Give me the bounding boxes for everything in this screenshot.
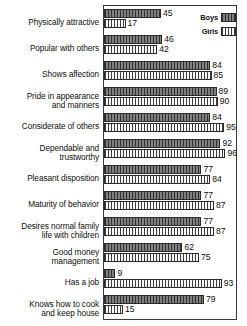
bar-girls <box>104 149 225 158</box>
bar-boys <box>104 165 201 174</box>
legend-label-girls: Girls <box>202 27 218 36</box>
legend-item-boys: Boys <box>190 12 236 23</box>
bar-girls <box>104 97 218 106</box>
bar-boys <box>104 243 182 252</box>
bar-boys <box>104 9 161 18</box>
category-label: Considerate of others <box>0 122 99 132</box>
bar-value-label: 79 <box>206 295 216 304</box>
bar-value-label: 9 <box>117 269 122 278</box>
chart-legend: Boys Girls <box>190 12 236 40</box>
bar-girls <box>104 279 222 288</box>
bar-value-label: 84 <box>212 113 222 122</box>
chart-row: Desires normal family life with children… <box>0 217 247 236</box>
bar-girls <box>104 123 224 132</box>
bar-value-label: 87 <box>216 227 226 236</box>
bar-value-label: 77 <box>203 165 213 174</box>
bar-chart: Physically attractive4517Popular with ot… <box>0 0 247 326</box>
bar-value-label: 77 <box>203 191 213 200</box>
bar-value-label: 85 <box>214 71 224 80</box>
bar-value-label: 84 <box>212 175 222 184</box>
bar-value-label: 75 <box>201 253 211 262</box>
bar-value-label: 17 <box>128 19 138 28</box>
bar-value-label: 95 <box>226 123 236 132</box>
category-label: Shows affection <box>0 70 99 80</box>
chart-row: Dependable and trustworthy9296 <box>0 139 247 158</box>
bar-girls <box>104 305 123 314</box>
chart-rows: Physically attractive4517Popular with ot… <box>0 0 247 326</box>
bar-boys <box>104 61 210 70</box>
bar-girls <box>104 253 199 262</box>
bar-value-label: 90 <box>220 97 230 106</box>
chart-row: Considerate of others8495 <box>0 113 247 132</box>
category-label: Knows how to cook and keep house <box>0 300 99 319</box>
chart-row: Maturity of behavior7787 <box>0 191 247 210</box>
bar-value-label: 45 <box>163 9 173 18</box>
bar-girls <box>104 45 157 54</box>
category-label: Popular with others <box>0 44 99 54</box>
category-label: Pleasant disposition <box>0 174 99 184</box>
bar-girls <box>104 201 214 210</box>
chart-row: Good money management6275 <box>0 243 247 262</box>
boys-swatch-icon <box>221 13 236 22</box>
bar-boys <box>104 139 220 148</box>
bar-value-label: 62 <box>184 243 194 252</box>
category-label: Pride in appearance and manners <box>0 92 99 111</box>
bar-boys <box>104 269 115 278</box>
bar-value-label: 46 <box>164 35 174 44</box>
category-label: Desires normal family life with children <box>0 222 99 241</box>
bar-boys <box>104 35 162 44</box>
bar-value-label: 93 <box>224 279 234 288</box>
category-label: Dependable and trustworthy <box>0 144 99 163</box>
category-label: Maturity of behavior <box>0 200 99 210</box>
bar-value-label: 77 <box>203 217 213 226</box>
bar-value-label: 15 <box>125 305 135 314</box>
bar-boys <box>104 191 201 200</box>
chart-row: Pride in appearance and manners8990 <box>0 87 247 106</box>
bar-boys <box>104 87 217 96</box>
legend-label-boys: Boys <box>200 13 218 22</box>
bar-boys <box>104 217 201 226</box>
chart-row: Has a job993 <box>0 269 247 288</box>
bar-value-label: 92 <box>222 139 232 148</box>
bar-value-label: 42 <box>159 45 169 54</box>
bar-value-label: 96 <box>227 149 237 158</box>
bar-value-label: 89 <box>219 87 229 96</box>
chart-row: Knows how to cook and keep house7915 <box>0 295 247 314</box>
legend-item-girls: Girls <box>190 26 236 37</box>
bar-girls <box>104 19 126 28</box>
chart-row: Shows affection8485 <box>0 61 247 80</box>
bar-girls <box>104 71 212 80</box>
girls-swatch-icon <box>221 27 236 36</box>
bar-boys <box>104 113 210 122</box>
bar-value-label: 87 <box>216 201 226 210</box>
bar-value-label: 84 <box>212 61 222 70</box>
bar-girls <box>104 175 210 184</box>
category-label: Has a job <box>0 278 99 288</box>
bar-boys <box>104 295 204 304</box>
category-label: Good money management <box>0 248 99 267</box>
bar-girls <box>104 227 214 236</box>
category-label: Physically attractive <box>0 18 99 28</box>
chart-row: Pleasant disposition7784 <box>0 165 247 184</box>
